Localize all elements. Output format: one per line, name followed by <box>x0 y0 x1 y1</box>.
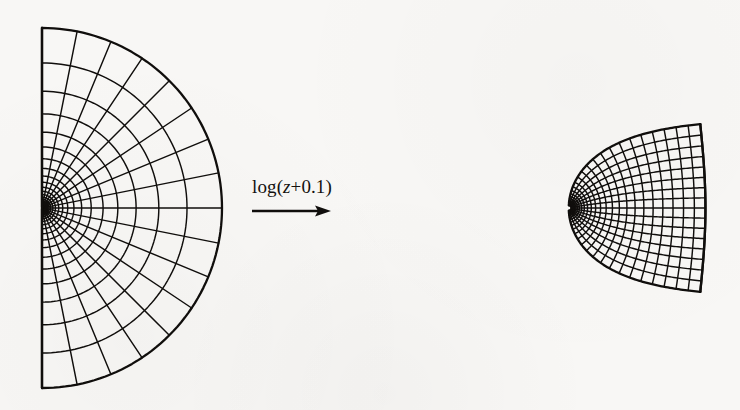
transform-label-suffix: +0.1) <box>291 176 332 197</box>
transform-label: log(z+0.1) <box>236 176 348 198</box>
right-arrow-icon <box>236 200 348 222</box>
conformal-grid-canvas <box>0 0 740 410</box>
conformal-map-figure: log(z+0.1) <box>0 0 740 410</box>
transform-label-variable: z <box>283 176 291 197</box>
transform-label-prefix: log( <box>252 176 283 197</box>
image-domain-grid <box>569 124 706 292</box>
source-domain-grid <box>42 28 222 388</box>
